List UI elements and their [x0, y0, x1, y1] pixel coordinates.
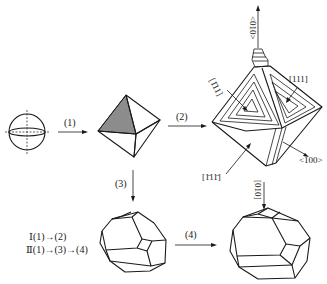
crystal-growth-diagram: (1) (2) <010>: [0, 0, 327, 284]
up-direction-label: <010>: [248, 16, 258, 40]
truncated-octahedron-large-shape: [230, 208, 310, 279]
face-label-left: [1̄11]: [207, 76, 225, 97]
up-direction-arrow: <010>: [248, 5, 260, 48]
path-2-label: Ⅱ(1)→(3)→(4): [26, 244, 88, 256]
path-legend: Ⅰ(1)→(2) Ⅱ(1)→(3)→(4): [26, 231, 88, 256]
octahedron-shape: [98, 95, 160, 157]
step-1-label: (1): [64, 117, 76, 129]
step-2-label: (2): [176, 111, 188, 123]
step-4-arrow: (4): [175, 229, 217, 247]
step-3-arrow: (3): [115, 170, 135, 202]
sphere-shape: [5, 110, 50, 154]
path-1-label: Ⅰ(1)→(2): [29, 231, 66, 243]
step-2-arrow: (2): [168, 111, 207, 128]
face-label-111: [111]: [289, 74, 308, 84]
step-4-label: (4): [185, 229, 197, 241]
face-label-bottom: [1̄11̄]: [202, 172, 221, 182]
truncated-octahedron-small-shape: [100, 212, 166, 272]
step-1-arrow: (1): [58, 117, 88, 134]
top-direction-label: [010]: [253, 180, 263, 200]
edge-label-100: <100>: [299, 155, 323, 165]
top-direction-arrow: [010]: [253, 180, 266, 210]
step-3-label: (3): [115, 178, 127, 190]
